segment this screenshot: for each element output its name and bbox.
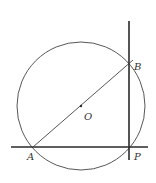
segment-ab xyxy=(33,60,133,147)
label-o: O xyxy=(84,111,92,122)
label-p: P xyxy=(133,151,141,162)
label-a: A xyxy=(26,151,34,162)
label-b: B xyxy=(133,61,141,72)
geometry-diagram: A B O P xyxy=(0,0,156,183)
center-point-o xyxy=(80,105,82,107)
